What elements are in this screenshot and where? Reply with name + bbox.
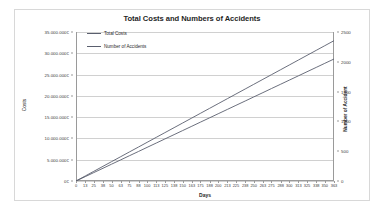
x-axis-tick-label: 325 xyxy=(304,183,311,188)
x-axis-tick-label: 238 xyxy=(242,183,249,188)
chart-legend: Total Costs Number of Accidents xyxy=(87,27,207,53)
x-axis-tick-label: 88 xyxy=(136,183,140,188)
x-axis-tick-label: 300 xyxy=(286,183,293,188)
x-axis-labels: 0132538506375881001131251381501631751882… xyxy=(76,183,334,191)
x-axis-tick-label: 313 xyxy=(295,183,302,188)
x-axis-tick-label: 338 xyxy=(313,183,320,188)
x-axis-tick-label: 38 xyxy=(101,183,105,188)
y-axis-tick-right xyxy=(337,121,339,122)
x-axis-tick-label: 350 xyxy=(322,183,329,188)
x-axis-tick xyxy=(307,181,308,183)
y-axis-tick-left xyxy=(71,159,73,160)
y-axis-tick-left xyxy=(71,95,73,96)
x-axis-tick xyxy=(121,181,122,183)
y-axis-tick-label-left: 35.000.000€ xyxy=(45,30,69,35)
y-axis-tick-label-left: 20.000.000€ xyxy=(45,93,69,98)
y-axis-tick-label-left: 15.000.000€ xyxy=(45,115,69,120)
x-axis-tick-label: 213 xyxy=(224,183,231,188)
series-line xyxy=(76,41,334,181)
x-axis-tick-label: 150 xyxy=(179,183,186,188)
x-axis-tick xyxy=(289,181,290,183)
y-axis-tick-label-right: 500 xyxy=(341,149,348,154)
x-axis-tick xyxy=(103,181,104,183)
x-axis-tick-label: 25 xyxy=(92,183,96,188)
series-line xyxy=(76,59,334,181)
y-axis-tick-left xyxy=(71,181,73,182)
y-axis-tick-label-right: 1500 xyxy=(341,89,351,94)
x-axis-tick xyxy=(325,181,326,183)
y-axis-tick-label-right: 1000 xyxy=(341,119,351,124)
x-axis-tick xyxy=(183,181,184,183)
x-axis-tick-label: 275 xyxy=(268,183,275,188)
legend-swatch-icon-number-of-accidents xyxy=(87,46,101,47)
y-axis-labels-right: 05001000150020002500 xyxy=(337,32,359,181)
x-axis-tick-label: 75 xyxy=(127,183,131,188)
legend-label-total-costs: Total Costs xyxy=(104,31,127,36)
legend-entry-total-costs: Total Costs xyxy=(87,27,207,40)
y-axis-tick-label-right: 2000 xyxy=(341,59,351,64)
x-axis-tick-label: 113 xyxy=(153,183,159,188)
y-axis-tick-left xyxy=(71,138,73,139)
x-axis-tick xyxy=(227,181,228,183)
x-axis-tick xyxy=(245,181,246,183)
x-axis-tick-label: 0 xyxy=(75,183,77,188)
plot-area xyxy=(76,32,334,181)
x-axis-tick xyxy=(263,181,264,183)
x-axis-tick xyxy=(112,181,113,183)
x-axis-tick-label: 13 xyxy=(83,183,87,188)
x-axis-tick xyxy=(218,181,219,183)
x-axis-tick xyxy=(271,181,272,183)
x-axis-tick xyxy=(298,181,299,183)
x-axis-tick xyxy=(236,181,237,183)
x-axis-tick xyxy=(316,181,317,183)
x-axis-tick-label: 63 xyxy=(119,183,123,188)
x-axis-tick-label: 100 xyxy=(144,183,151,188)
x-axis-tick xyxy=(192,181,193,183)
x-axis-tick-label: 188 xyxy=(206,183,213,188)
y-axis-tick-label-right: 2500 xyxy=(341,30,351,35)
x-axis-tick-label: 175 xyxy=(197,183,204,188)
gridline xyxy=(76,181,334,182)
y-axis-tick-right xyxy=(337,32,339,33)
y-axis-tick-label-right: 0 xyxy=(341,179,343,184)
x-axis-tick xyxy=(139,181,140,183)
x-axis-tick xyxy=(200,181,201,183)
x-axis-tick-label: 200 xyxy=(215,183,222,188)
x-axis-tick xyxy=(165,181,166,183)
y-axis-tick-label-left: 5.000.000€ xyxy=(47,157,69,162)
x-axis-title: Days xyxy=(76,192,334,198)
x-axis-tick-label: 125 xyxy=(162,183,169,188)
x-axis-tick-label: 250 xyxy=(250,183,257,188)
x-axis-tick xyxy=(210,181,211,183)
y-axis-tick-left xyxy=(71,53,73,54)
x-axis-tick-label: 138 xyxy=(171,183,178,188)
y-axis-tick-left xyxy=(71,32,73,33)
y-axis-tick-right xyxy=(337,91,339,92)
x-axis-tick xyxy=(281,181,282,183)
x-axis-tick xyxy=(85,181,86,183)
legend-label-number-of-accidents: Number of Accidents xyxy=(104,44,146,49)
y-axis-tick-label-left: 30.000.000€ xyxy=(45,51,69,56)
series-lines xyxy=(76,32,334,181)
y-axis-labels-left: 0€5.000.000€10.000.000€15.000.000€20.000… xyxy=(27,32,73,181)
x-axis-tick-label: 263 xyxy=(260,183,267,188)
chart-container: Total Costs and Numbers of Accidents Cos… xyxy=(14,9,370,201)
x-axis-tick xyxy=(174,181,175,183)
x-axis-tick-label: 288 xyxy=(277,183,284,188)
y-axis-tick-right xyxy=(337,151,339,152)
x-axis-tick xyxy=(76,181,77,183)
y-axis-tick-right xyxy=(337,61,339,62)
y-axis-tick-label-left: 10.000.000€ xyxy=(45,136,69,141)
x-axis-tick xyxy=(334,181,335,183)
x-axis-tick xyxy=(254,181,255,183)
x-axis-tick xyxy=(94,181,95,183)
y-axis-tick-label-left: 0€ xyxy=(64,179,69,184)
y-axis-tick-label-left: 25.000.000€ xyxy=(45,72,69,77)
legend-swatch-icon-total-costs xyxy=(87,33,101,34)
y-axis-tick-left xyxy=(71,74,73,75)
legend-entry-number-of-accidents: Number of Accidents xyxy=(87,40,207,53)
x-axis-tick xyxy=(147,181,148,183)
y-axis-tick-left xyxy=(71,117,73,118)
chart-title: Total Costs and Numbers of Accidents xyxy=(15,14,369,23)
x-axis-tick xyxy=(156,181,157,183)
